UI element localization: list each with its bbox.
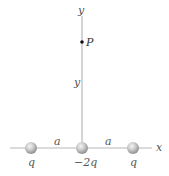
charge-left-label: q	[28, 157, 35, 168]
charge-origin-sphere	[76, 142, 88, 154]
point-p-marker	[80, 40, 84, 44]
diagram-canvas	[0, 0, 169, 176]
spacing-a-left-label: a	[54, 136, 61, 147]
charge-right-sphere	[127, 142, 139, 154]
y-axis-label: y	[78, 5, 84, 16]
charge-left-sphere	[25, 142, 37, 154]
spacing-a-right-label: a	[105, 136, 112, 147]
point-p-label: P	[86, 37, 93, 48]
x-axis-label: x	[156, 142, 162, 153]
distance-y-label: y	[74, 77, 80, 88]
charge-origin-label: −2q	[74, 157, 97, 168]
charge-configuration-diagram: y x P y a a q −2q q	[0, 0, 169, 176]
charge-right-label: q	[130, 157, 137, 168]
